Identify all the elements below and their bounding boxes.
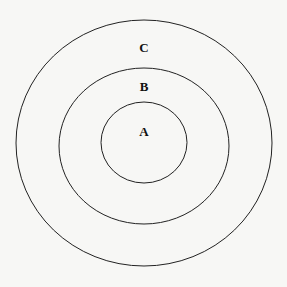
label-b: B <box>140 79 149 95</box>
label-c: C <box>139 40 148 56</box>
concentric-circles-diagram: C B A <box>0 0 287 287</box>
ring-a <box>101 102 187 183</box>
label-a: A <box>139 124 148 140</box>
ring-c <box>16 20 272 266</box>
